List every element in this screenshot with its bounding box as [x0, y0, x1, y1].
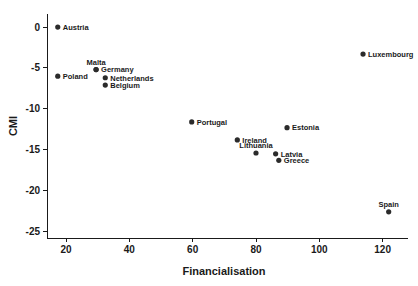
- point-marker: [55, 74, 60, 79]
- point-label: Portugal: [197, 118, 227, 127]
- x-tick-label: 100: [311, 244, 328, 255]
- axes-group: [47, 14, 408, 238]
- point-label: Luxembourg: [368, 50, 414, 59]
- point-marker: [360, 51, 365, 56]
- y-tick-label: -20: [26, 185, 41, 196]
- point-label: Austria: [63, 23, 90, 32]
- x-tick-label: 60: [187, 244, 199, 255]
- y-tick-label: -25: [26, 226, 41, 237]
- data-point[interactable]: Estonia: [284, 123, 320, 132]
- point-label: Spain: [378, 200, 399, 209]
- data-point[interactable]: Austria: [55, 23, 89, 32]
- point-marker: [103, 83, 108, 88]
- scatter-chart: 0-5-10-15-20-2520406080100120 AustriaPol…: [0, 0, 418, 286]
- x-tick-label: 80: [250, 244, 262, 255]
- data-point[interactable]: Lithuania: [239, 141, 273, 156]
- data-point[interactable]: Poland: [55, 72, 88, 81]
- point-label: Estonia: [292, 123, 320, 132]
- plot-area: 0-5-10-15-20-2520406080100120 AustriaPol…: [0, 0, 418, 286]
- point-label: Poland: [63, 72, 88, 81]
- y-tick-label: 0: [34, 22, 40, 33]
- point-marker: [103, 75, 108, 80]
- data-point[interactable]: Belgium: [103, 81, 141, 90]
- x-tick-label: 120: [374, 244, 391, 255]
- point-marker: [93, 67, 98, 72]
- y-tick-label: -15: [26, 144, 41, 155]
- data-points-group: AustriaPolandMaltaGermanyNetherlandsBelg…: [55, 23, 414, 215]
- point-label: Belgium: [110, 81, 140, 90]
- point-label: Lithuania: [239, 141, 273, 150]
- ticks-group: 0-5-10-15-20-2520406080100120: [26, 22, 392, 255]
- data-point[interactable]: Luxembourg: [360, 50, 413, 59]
- x-tick-label: 40: [124, 244, 136, 255]
- y-tick-label: -10: [26, 103, 41, 114]
- data-point[interactable]: Portugal: [189, 118, 227, 127]
- point-marker: [55, 24, 60, 29]
- point-marker: [273, 151, 278, 156]
- x-axis-title: Financialisation: [182, 265, 265, 277]
- data-point[interactable]: Spain: [378, 200, 399, 215]
- point-marker: [189, 119, 194, 124]
- x-tick-label: 20: [60, 244, 72, 255]
- y-tick-label: -5: [31, 62, 40, 73]
- point-marker: [276, 158, 281, 163]
- point-label: Greece: [284, 156, 309, 165]
- point-marker: [284, 125, 289, 130]
- point-marker: [253, 150, 258, 155]
- chart-canvas: 0-5-10-15-20-2520406080100120 AustriaPol…: [0, 0, 418, 286]
- y-axis-title: CMI: [7, 116, 19, 136]
- point-marker: [386, 209, 391, 214]
